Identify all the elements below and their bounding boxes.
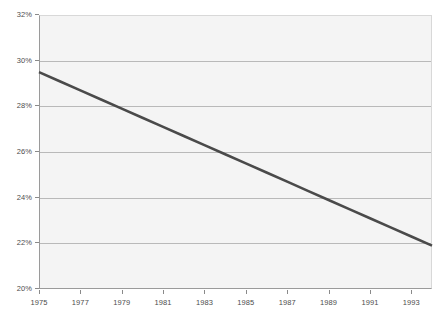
series-line-0 (39, 72, 432, 246)
series-layer (0, 0, 441, 310)
line-chart: 32%30%28%26%24%22%20% 197519771979198119… (0, 0, 441, 310)
